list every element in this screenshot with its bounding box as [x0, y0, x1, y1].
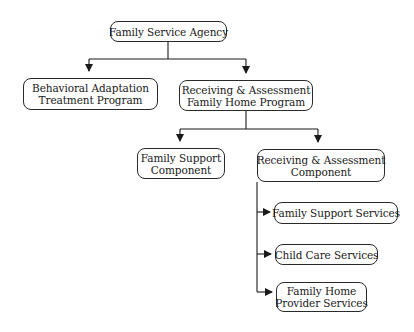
connector-fsa-children — [89, 41, 246, 73]
node-label-line-1: Receiving & Assessment — [257, 154, 386, 166]
node-label-line-2: Family Home Program — [187, 96, 305, 108]
node-label: Family Support Services — [272, 207, 400, 219]
node-label-line-2: Provider Services — [275, 297, 368, 309]
node-label-line-1: Family Home — [287, 285, 356, 297]
node-label-line-2: Component — [151, 164, 211, 176]
node-family-support-services: Family Support Services — [274, 202, 398, 224]
node-receiving-assessment-component: Receiving & Assessment Component — [257, 149, 385, 182]
node-label-line-1: Family Support — [141, 152, 221, 164]
node-family-service-agency: Family Service Agency — [110, 21, 227, 42]
node-label-line-2: Component — [291, 166, 351, 178]
node-label: Family Service Agency — [109, 26, 228, 38]
connector-rac-services — [257, 182, 272, 292]
node-family-home-provider-services: Family Home Provider Services — [276, 282, 367, 312]
node-child-care-services: Child Care Services — [275, 244, 378, 265]
node-label-line-2: Treatment Program — [39, 94, 143, 106]
node-label: Child Care Services — [275, 249, 379, 261]
node-receiving-assessment-family-home-program: Receiving & Assessment Family Home Progr… — [179, 80, 313, 111]
connector-rafhp-children — [180, 111, 318, 142]
node-label-line-1: Receiving & Assessment — [182, 84, 311, 96]
node-label-line-1: Behavioral Adaptation — [32, 82, 149, 94]
node-behavioral-adaptation-treatment-program: Behavioral Adaptation Treatment Program — [23, 78, 158, 110]
node-family-support-component: Family Support Component — [137, 148, 225, 179]
